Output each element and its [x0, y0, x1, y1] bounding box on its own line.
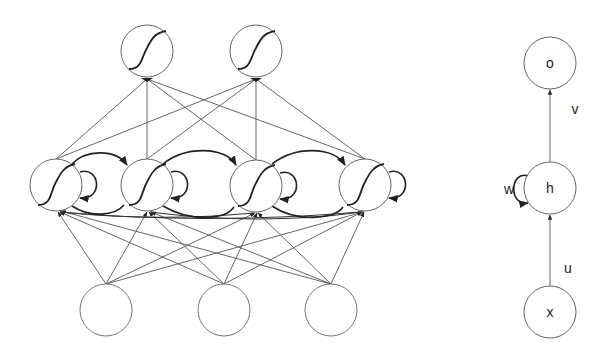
edge-label-u: u [564, 260, 572, 276]
hidden-node-label: h [546, 180, 554, 196]
folded-network: o h x v w u [503, 37, 579, 338]
unfolded-network [30, 25, 406, 336]
edge-label-w: w [503, 181, 515, 197]
output-arrow-cap-1 [141, 78, 153, 82]
edge-label-v: v [572, 101, 579, 117]
recurrent-neighbor-arcs [72, 151, 345, 218]
output-node-label: o [546, 55, 554, 71]
hidden-node [30, 159, 82, 211]
input-node-label: x [547, 304, 554, 320]
hidden-to-output-edges [56, 79, 365, 160]
output-node [121, 25, 173, 77]
rnn-diagram: o h x v w u [0, 0, 607, 356]
output-arrow-cap-2 [250, 78, 262, 82]
input-node [305, 284, 357, 336]
input-node [80, 284, 132, 336]
input-to-hidden-edges [58, 211, 364, 284]
output-node [230, 25, 282, 77]
input-node [198, 284, 250, 336]
hidden-node [339, 159, 391, 211]
hidden-node [121, 159, 173, 211]
hidden-node [230, 160, 282, 212]
